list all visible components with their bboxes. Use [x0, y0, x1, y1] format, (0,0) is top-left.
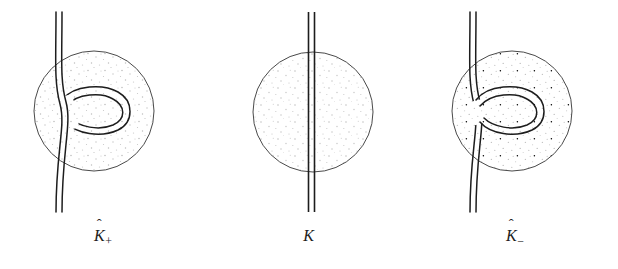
- caption-subscript: −: [517, 234, 524, 248]
- panel-k-plus: ˆ K +: [0, 0, 206, 269]
- figure-root: ˆ K +: [0, 0, 618, 269]
- diagram-k: [206, 0, 412, 222]
- diagram-k-minus: [412, 0, 618, 222]
- disk-region: [34, 51, 154, 171]
- caption-base-wrap: ˆ K: [506, 226, 517, 246]
- caption-subscript: +: [105, 234, 112, 248]
- caption-k-minus: ˆ K −: [412, 226, 618, 251]
- caption-base-wrap: ˆ K: [94, 226, 105, 246]
- caption-hat: ˆ: [509, 217, 514, 232]
- disk-region: [253, 52, 373, 172]
- caption-base-wrap: K: [303, 226, 314, 246]
- caption-base: K: [303, 227, 314, 244]
- caption-k: K: [206, 226, 412, 251]
- caption-hat: ˆ: [97, 217, 102, 232]
- panel-k-minus: ˆ K −: [412, 0, 618, 269]
- panel-k: K: [206, 0, 412, 269]
- diagram-k-plus: [0, 0, 206, 222]
- caption-k-plus: ˆ K +: [0, 226, 206, 251]
